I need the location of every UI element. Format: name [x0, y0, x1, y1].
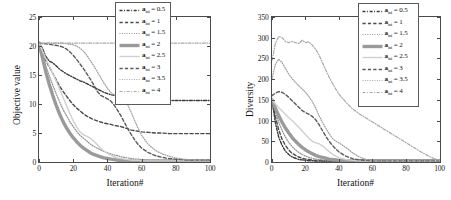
legend-line-swatch [362, 7, 383, 16]
legend-line-swatch [119, 64, 140, 73]
objective-value-panel: Objective value Iteration# 0510152025020… [0, 0, 226, 200]
y-tick-label: 250 [258, 54, 269, 63]
x-tick [440, 159, 441, 162]
legend-line-swatch [362, 76, 383, 85]
legend-item-label: aini= 2 [142, 41, 160, 50]
legend-item: aini= 4 [119, 86, 167, 98]
legend-item: aini= 3.5 [362, 75, 415, 87]
x-tick [339, 159, 340, 162]
x-tick [210, 159, 211, 162]
legend-item-label: aini= 0.5 [385, 7, 408, 16]
x-tick [176, 159, 177, 162]
legend-line-swatch [362, 65, 383, 74]
legend-item-label: aini= 0.5 [142, 6, 165, 15]
legend-item: aini= 2.5 [362, 52, 415, 64]
legend-line-swatch [119, 87, 140, 96]
x-tick-label: 100 [205, 164, 216, 173]
y-tick [272, 121, 275, 122]
legend-line-swatch [362, 19, 383, 28]
y-tick-right [207, 133, 210, 134]
x-axis-title-objective: Iteration# [107, 178, 144, 188]
y-tick-right [437, 121, 440, 122]
legend-item: aini= 2.5 [119, 51, 167, 63]
y-tick-label: 20 [29, 42, 36, 51]
diversity-panel: Diversity Iteration# 0501001502002503003… [226, 0, 451, 200]
series-line [272, 100, 440, 161]
legend-line-swatch [119, 6, 140, 15]
legend-line-swatch [362, 42, 383, 51]
x-tick-label: 60 [138, 164, 145, 173]
y-tick-label: 5 [32, 129, 36, 138]
y-tick-label: 25 [29, 13, 36, 22]
legend-item: aini= 1 [119, 17, 167, 29]
x-tick-top [440, 17, 441, 20]
y-tick-label: 0 [32, 158, 36, 167]
y-tick-right [207, 104, 210, 105]
series-line [272, 100, 440, 161]
legend-item-label: aini= 1.5 [142, 29, 165, 38]
x-tick-top [339, 17, 340, 20]
y-tick [39, 133, 42, 134]
legend-item-label: aini= 3.5 [385, 76, 408, 85]
series-line [272, 100, 440, 161]
legend-item-label: aini= 4 [142, 87, 160, 96]
x-tick-label: 80 [402, 164, 409, 173]
y-tick [272, 38, 275, 39]
legend-item: aini= 0.5 [362, 6, 415, 18]
x-tick-top [272, 17, 273, 20]
x-tick-top [210, 17, 211, 20]
y-tick-label: 200 [258, 75, 269, 84]
legend-item-label: aini= 4 [385, 88, 403, 97]
y-axis-title-objective: Objective value [12, 65, 22, 125]
legend-line-swatch [119, 29, 140, 38]
y-tick-label: 10 [29, 100, 36, 109]
legend-line-swatch [362, 53, 383, 62]
legend-item-label: aini= 3.5 [142, 75, 165, 84]
legend-line-swatch [119, 75, 140, 84]
legend-item: aini= 1.5 [362, 29, 415, 41]
legend-item-label: aini= 1 [385, 19, 403, 28]
y-tick-right [437, 100, 440, 101]
y-tick [39, 46, 42, 47]
legend-item: aini= 1.5 [119, 28, 167, 40]
legend-item: aini= 3 [119, 63, 167, 75]
legend-item-label: aini= 3 [142, 64, 160, 73]
y-tick [272, 58, 275, 59]
y-tick-right [437, 38, 440, 39]
x-axis-title-diversity: Iteration# [337, 178, 374, 188]
y-tick-right [437, 141, 440, 142]
series-line [272, 100, 440, 161]
x-tick [142, 159, 143, 162]
legend-line-swatch [119, 18, 140, 27]
x-tick-label: 60 [369, 164, 376, 173]
legend-item-label: aini= 2.5 [142, 52, 165, 61]
legend-item: aini= 2 [362, 41, 415, 53]
y-tick-label: 15 [29, 71, 36, 80]
x-tick-label: 100 [434, 164, 445, 173]
legend-item: aini= 4 [362, 87, 415, 99]
y-tick-label: 100 [258, 116, 269, 125]
y-tick [272, 162, 275, 163]
y-tick-label: 50 [261, 137, 268, 146]
y-tick [39, 75, 42, 76]
legend-line-swatch [362, 30, 383, 39]
x-tick-top [176, 17, 177, 20]
x-tick [372, 159, 373, 162]
x-tick-label: 40 [104, 164, 111, 173]
legend-item-label: aini= 1.5 [385, 30, 408, 39]
legend-line-swatch [119, 41, 140, 50]
x-tick [272, 159, 273, 162]
x-tick-label: 0 [270, 164, 274, 173]
y-tick-right [207, 46, 210, 47]
legend-item: aini= 2 [119, 40, 167, 52]
x-tick [39, 159, 40, 162]
x-tick-label: 20 [70, 164, 77, 173]
y-tick-right [437, 58, 440, 59]
series-line [272, 99, 440, 161]
y-tick [39, 104, 42, 105]
legend-line-swatch [119, 52, 140, 61]
x-tick-label: 80 [172, 164, 179, 173]
legend-item: aini= 3 [362, 64, 415, 76]
x-tick [73, 159, 74, 162]
legend-item: aini= 0.5 [119, 5, 167, 17]
